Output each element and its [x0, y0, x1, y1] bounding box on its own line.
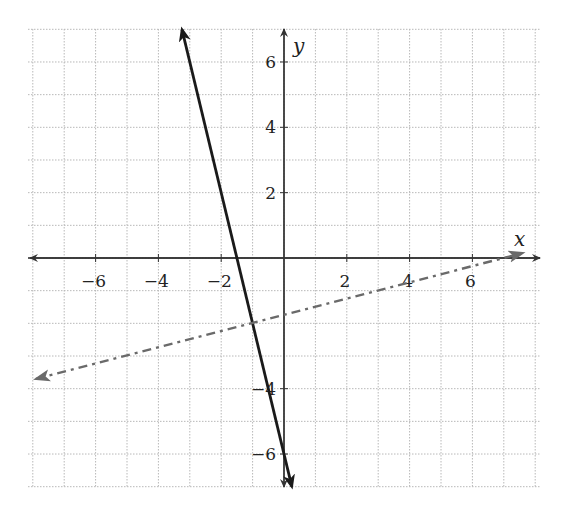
y-tick-label: −6: [251, 444, 276, 464]
y-tick-label: −4: [251, 379, 276, 399]
x-tick-label: −6: [81, 271, 106, 291]
x-tick-label: 4: [402, 271, 413, 291]
x-tick-label: 2: [339, 271, 350, 291]
y-tick-label: 2: [265, 183, 276, 203]
x-tick-label: 6: [465, 271, 476, 291]
x-axis-label: x: [514, 227, 525, 251]
dashdot-line: [36, 253, 523, 379]
axes: [28, 29, 540, 487]
y-axis-label: y: [292, 34, 305, 58]
y-tick-label: 4: [265, 117, 276, 137]
coordinate-plane: −6−4−2246−6−4246 x y: [0, 0, 562, 507]
x-tick-label: −4: [144, 271, 169, 291]
y-tick-label: 6: [265, 52, 276, 72]
x-tick-label: −2: [207, 271, 232, 291]
